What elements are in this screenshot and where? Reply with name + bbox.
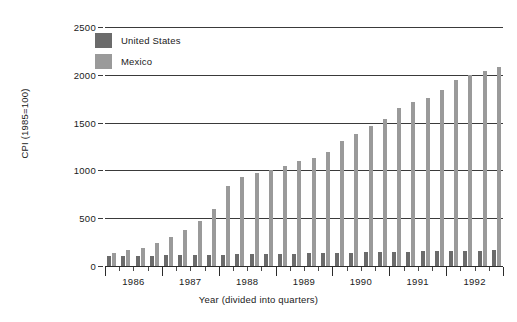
bar-group [435, 27, 444, 266]
bar-united-states [221, 255, 225, 266]
bar-united-states [264, 254, 268, 266]
bar-mexico [468, 75, 472, 266]
bar-mexico [112, 253, 116, 266]
x-major-tick [503, 267, 504, 276]
bar-group [235, 27, 244, 266]
bar-mexico [340, 141, 344, 266]
bar-mexico [169, 237, 173, 266]
bar-united-states [421, 251, 425, 266]
bar-united-states [335, 253, 339, 266]
bar-united-states [392, 252, 396, 266]
y-tick-label-2500: 2500 [74, 22, 96, 33]
x-tick-label-1990: 1990 [350, 276, 372, 287]
bar-group [463, 27, 472, 266]
bar-group [207, 27, 216, 266]
x-major-tick [105, 267, 106, 276]
bar-group [221, 27, 230, 266]
y-tick-label-1500: 1500 [74, 117, 96, 128]
bar-mexico [426, 98, 430, 266]
bar-mexico [269, 170, 273, 266]
y-tick-mark-500 [98, 218, 103, 219]
x-major-tick [389, 267, 390, 276]
bar-united-states [406, 252, 410, 266]
bar-united-states [136, 256, 140, 266]
bar-mexico [454, 80, 458, 266]
bar-mexico [297, 161, 301, 266]
bar-group [478, 27, 487, 266]
bar-united-states [321, 253, 325, 266]
bar-united-states [207, 255, 211, 266]
y-tick-label-1000: 1000 [74, 165, 96, 176]
bar-united-states [164, 255, 168, 266]
bar-mexico [411, 102, 415, 266]
bar-mexico [198, 221, 202, 266]
bar-group [349, 27, 358, 266]
bar-mexico [383, 119, 387, 266]
x-tick-label-1991: 1991 [407, 276, 429, 287]
x-axis-title: Year (divided into quarters) [0, 294, 517, 305]
bar-mexico [312, 158, 316, 266]
bar-mexico [212, 209, 216, 266]
bar-united-states [435, 251, 439, 266]
bar-group [250, 27, 259, 266]
bar-group [335, 27, 344, 266]
y-tick-label-0: 0 [90, 261, 96, 272]
bar-group [421, 27, 430, 266]
bar-mexico [155, 243, 159, 266]
x-major-tick [332, 267, 333, 276]
bar-group [378, 27, 387, 266]
y-axis-title: CPI (1985=100) [19, 64, 30, 184]
cpi-bar-chart: CPI (1985=100) 05001000150020002500 1986… [0, 0, 517, 322]
bar-group [392, 27, 401, 266]
legend-item-mexico: Mexico [95, 52, 181, 71]
bar-united-states [292, 254, 296, 266]
y-tick-mark-2000 [98, 75, 103, 76]
bar-united-states [349, 253, 353, 266]
bar-united-states [178, 255, 182, 266]
bar-united-states [193, 255, 197, 266]
bar-united-states [107, 256, 111, 266]
legend-label-united-states: United States [121, 35, 181, 46]
bar-united-states [463, 251, 467, 266]
bar-group [449, 27, 458, 266]
y-tick-mark-2500 [98, 27, 103, 28]
bar-mexico [397, 108, 401, 266]
x-tick-label-1986: 1986 [122, 276, 144, 287]
bar-group [264, 27, 273, 266]
legend-swatch-icon-mexico [95, 54, 112, 69]
bar-mexico [226, 186, 230, 266]
bar-mexico [183, 230, 187, 266]
bar-mexico [440, 90, 444, 266]
x-tick-label-1992: 1992 [463, 276, 485, 287]
bar-mexico [255, 173, 259, 266]
bar-group [321, 27, 330, 266]
bar-mexico [369, 126, 373, 266]
y-tick-label-2000: 2000 [74, 69, 96, 80]
y-tick-mark-1000 [98, 170, 103, 171]
x-tick-label-1987: 1987 [179, 276, 201, 287]
bar-group [278, 27, 287, 266]
bar-group [307, 27, 316, 266]
bar-mexico [354, 134, 358, 266]
bar-united-states [278, 254, 282, 266]
bar-united-states [250, 254, 254, 266]
bar-united-states [150, 256, 154, 266]
legend-swatch-icon-united-states [95, 33, 112, 48]
bar-group [364, 27, 373, 266]
bar-mexico [283, 166, 287, 266]
bar-mexico [240, 177, 244, 266]
bar-united-states [364, 252, 368, 266]
x-major-tick [219, 267, 220, 276]
bar-united-states [121, 256, 125, 266]
bar-mexico [141, 248, 145, 266]
bar-mexico [326, 152, 330, 266]
x-major-tick [446, 267, 447, 276]
bar-group [406, 27, 415, 266]
y-tick-mark-0 [98, 266, 103, 267]
legend-label-mexico: Mexico [121, 56, 152, 67]
bar-united-states [478, 251, 482, 266]
bar-united-states [449, 251, 453, 266]
x-major-tick [162, 267, 163, 276]
x-tick-label-1989: 1989 [293, 276, 315, 287]
bar-group [193, 27, 202, 266]
